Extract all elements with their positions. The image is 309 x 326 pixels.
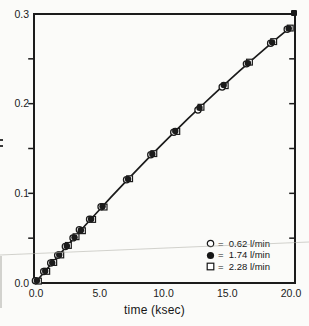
legend-item-0.62: = 0.62 l/min <box>205 238 270 249</box>
x-tick-label: 20.0 <box>281 287 302 299</box>
data-point-filled-circle <box>64 243 70 249</box>
filled-circle-marker-icon <box>205 250 218 261</box>
legend-label: = 1.74 l/min <box>218 249 270 260</box>
data-point-filled-circle <box>125 176 131 182</box>
y-tick-labels: 0.00.10.20.3 <box>14 8 29 289</box>
axis-ticks <box>28 59 295 238</box>
legend-item-2.28: = 2.28 l/min <box>205 261 270 272</box>
y-tick-label: 0.1 <box>14 187 29 199</box>
data-point-filled-circle <box>78 227 84 233</box>
open-square-marker-icon <box>205 261 218 272</box>
data-point-filled-circle <box>149 151 155 157</box>
y-tick-label: 0.3 <box>14 8 29 20</box>
data-point-filled-circle <box>42 268 48 274</box>
chart-legend: = 0.62 l/min = 1.74 l/min = 2.28 l/min <box>205 238 270 272</box>
data-point-filled-circle <box>88 216 94 222</box>
legend-item-1.74: = 1.74 l/min <box>205 249 270 260</box>
data-point-filled-circle <box>245 60 251 66</box>
data-point-filled-circle <box>286 25 292 31</box>
data-point-filled-circle <box>34 277 40 283</box>
x-tick-label: 10.0 <box>153 287 174 299</box>
x-tick-label: 5.0 <box>92 287 107 299</box>
x-tick-label: 0.0 <box>29 287 44 299</box>
legend-label: = 2.28 l/min <box>218 261 270 272</box>
y-tick-label: 0.2 <box>14 97 29 109</box>
data-point-filled-circle <box>99 203 105 209</box>
data-point-filled-circle <box>269 39 275 45</box>
data-point-filled-circle <box>221 82 227 88</box>
data-point-filled-circle <box>172 128 178 134</box>
plot-area: 0.00.10.20.30.05.010.015.020.0 <box>0 0 309 326</box>
x-tick-label: 15.0 <box>217 287 238 299</box>
data-point-filled-circle <box>71 234 77 240</box>
data-point-filled-circle <box>196 105 202 111</box>
x-tick-labels: 0.05.010.015.020.0 <box>29 287 302 299</box>
legend-label: = 0.62 l/min <box>218 238 270 249</box>
scanned-chart-figure: 0.00.10.20.30.05.010.015.020.0 = 0.62 l/… <box>0 0 309 326</box>
y-tick-label: 0.0 <box>14 277 29 289</box>
x-axis-title: time (ksec) <box>0 303 309 317</box>
data-point-filled-circle <box>49 260 55 266</box>
open-circle-marker-icon <box>205 238 218 249</box>
data-point-filled-circle <box>56 251 62 257</box>
